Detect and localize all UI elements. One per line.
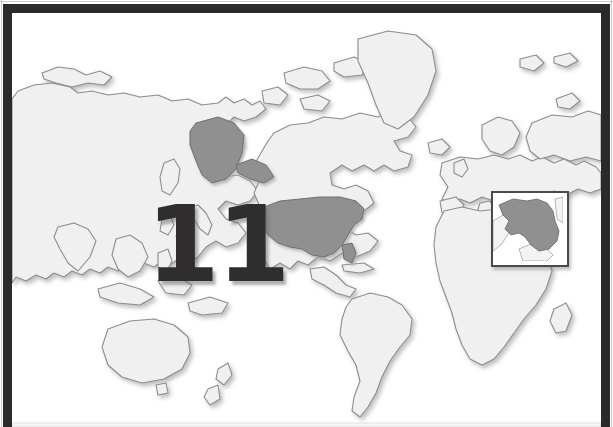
land-antarctica-sliver (12, 423, 601, 427)
page-frame-left (3, 4, 12, 427)
frame-hairline-left (1, 0, 2, 427)
land-tasmania (156, 383, 168, 395)
frame-hairline-top (0, 1, 613, 2)
frame-hairline-right (611, 0, 612, 427)
chapter-number: 11 (146, 192, 288, 298)
page-frame-top (3, 4, 610, 13)
map-inset-svg (493, 193, 563, 261)
chapter-opener-page: 11 Middle East detail Iraq (0, 0, 613, 427)
page-frame-right (601, 4, 610, 427)
map-inset-box: Middle East detail (491, 191, 569, 267)
